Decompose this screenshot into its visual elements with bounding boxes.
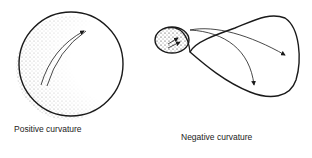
positive-curvature-label: Positive curvature: [14, 124, 82, 134]
sphere: [16, 12, 123, 120]
saddle: [155, 16, 299, 97]
curvature-diagram: [0, 0, 312, 158]
negative-curvature-label: Negative curvature: [181, 132, 252, 142]
